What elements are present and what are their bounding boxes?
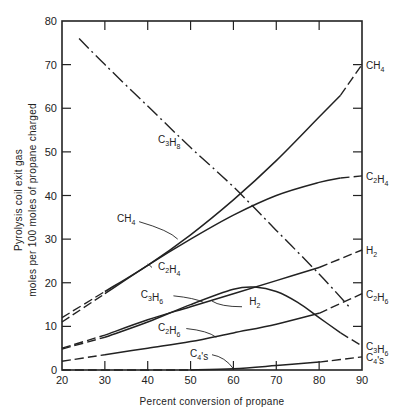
leader-arrow: [212, 301, 242, 307]
y-tick-label: 50: [45, 146, 57, 158]
y-tick-label: 30: [45, 233, 57, 245]
x-tick-label: 50: [184, 374, 196, 386]
series-c2h6: [62, 294, 362, 362]
pyrolysis-chart: 203040506070809001020304050607080 CH4C2H…: [0, 0, 403, 413]
axes: 203040506070809001020304050607080: [45, 15, 368, 386]
x-tick-label: 60: [227, 374, 239, 386]
series-h2: [62, 250, 362, 348]
series-labels: CH4C2H4H2C3H6C2H6C4'sC3H8CH4C2H4C3H6H2C2…: [117, 60, 388, 369]
data-curves: [62, 38, 362, 370]
y-tick-label: 10: [45, 320, 57, 332]
x-tick-label: 70: [270, 374, 282, 386]
x-tick-label: 40: [142, 374, 154, 386]
leader-arrow: [212, 355, 233, 369]
y-tick-label: 60: [45, 102, 57, 114]
leader-arrow: [186, 329, 216, 338]
series-c3h6: [62, 287, 362, 349]
y-axis-title-line2: moles per 100 moles of propane charged: [27, 103, 38, 297]
leader-arrow: [139, 222, 178, 239]
y-tick-label: 20: [45, 277, 57, 289]
right-label-h2: H2: [366, 245, 377, 258]
y-axis-title-line1: Pyrolysis coil exit gas: [13, 149, 24, 251]
y-tick-label: 40: [45, 190, 57, 202]
x-tick-label: 30: [99, 374, 111, 386]
annotation-h2: H2: [249, 296, 260, 309]
annotation-c2h4: C2H4: [158, 261, 180, 277]
plot-frame: [62, 21, 362, 370]
series-c4s: [62, 357, 362, 370]
y-tick-label: 70: [45, 59, 57, 71]
x-tick-label: 20: [56, 374, 68, 386]
x-tick-label: 90: [356, 374, 368, 386]
annotation-c3h8: C3H8: [158, 134, 180, 150]
right-label-c2h4: C2H4: [366, 171, 388, 187]
annotation-c3h6: C3H6: [141, 289, 163, 305]
series-ch4: [62, 65, 362, 318]
right-label-ch4: CH4: [366, 60, 384, 73]
annotation-ch4: CH4: [117, 213, 135, 226]
x-tick-label: 80: [313, 374, 325, 386]
y-tick-label: 0: [51, 364, 57, 376]
series-c3h8: [79, 38, 349, 306]
annotation-c2h6: C2H6: [158, 322, 180, 338]
right-label-c2h6: C2H6: [366, 289, 388, 305]
y-tick-label: 80: [45, 15, 57, 27]
x-axis-title: Percent conversion of propane: [140, 396, 285, 407]
annotation-c4s: C4's: [190, 348, 208, 362]
